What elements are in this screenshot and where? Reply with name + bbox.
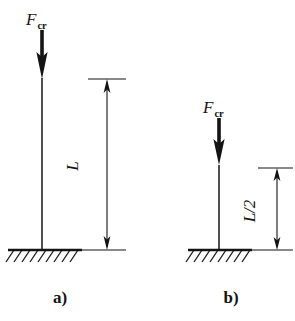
support-a-hatching <box>6 250 78 262</box>
force-label-a-subscript: cr <box>37 20 47 31</box>
force-label-a: Fcr <box>25 10 47 31</box>
force-label-b-subscript: cr <box>214 108 224 119</box>
panel-caption-b: b) <box>223 288 238 307</box>
panel-caption-a: a) <box>53 288 67 307</box>
force-arrow-a <box>36 30 47 79</box>
force-label-a-letter: F <box>25 10 37 29</box>
panel-a: Fcr <box>6 10 126 307</box>
force-label-b-letter: F <box>202 98 214 117</box>
force-label-b: Fcr <box>202 98 224 119</box>
panel-b: Fcr <box>186 98 293 307</box>
column-buckling-diagram: Fcr <box>0 0 295 321</box>
force-arrow-b <box>213 118 224 165</box>
figure-root: Fcr <box>0 0 295 321</box>
dimension-b-label: L/2 <box>240 199 259 223</box>
support-b <box>186 250 252 262</box>
support-b-hatching <box>186 250 250 262</box>
dimension-a: L <box>63 79 126 250</box>
support-a <box>6 250 82 262</box>
dimension-a-label: L <box>63 161 82 171</box>
dimension-b: L/2 <box>240 168 293 250</box>
